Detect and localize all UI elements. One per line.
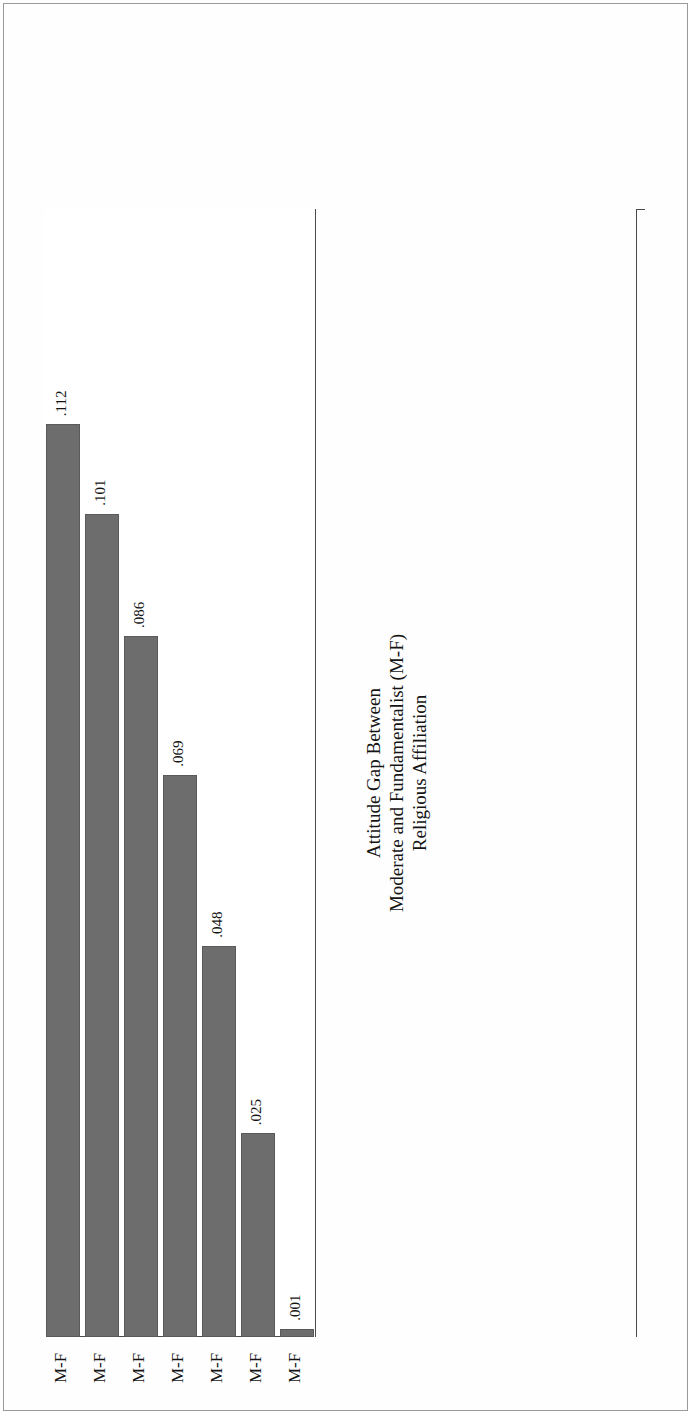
bar-chart-panel: M-F.112M-F.101M-F.086M-F.069M-F.048M-F.0…: [26, 31, 346, 1383]
bar-axis-line: [636, 209, 637, 1337]
bar-category-label: M-F: [51, 1353, 71, 1383]
bar-row: M-F.001: [279, 209, 313, 1337]
bar-row: M-F.048: [201, 209, 235, 1337]
bar-axis-tick: [636, 209, 645, 210]
bar-category-label: M-F: [129, 1353, 149, 1383]
bar-value-label: .069: [170, 740, 187, 766]
bar-chart-title: Attitude Gap Between Moderate and Fundam…: [362, 209, 432, 1337]
bar-category-label: M-F: [168, 1353, 188, 1383]
bar-category-label: M-F: [245, 1353, 265, 1383]
bar-row: M-F.101: [85, 209, 119, 1337]
bar-row: M-F.025: [240, 209, 274, 1337]
bar-title-line-2: Moderate and Fundamentalist (M-F): [385, 209, 408, 1337]
bar-category-label: M-F: [284, 1353, 304, 1383]
bar-category-label: M-F: [206, 1353, 226, 1383]
bar: [279, 1329, 313, 1337]
bar: [201, 946, 235, 1337]
bar-category-label: M-F: [90, 1353, 110, 1383]
bar-value-label: .086: [131, 602, 148, 628]
bar-row: M-F.086: [124, 209, 158, 1337]
bar-title-line-3: Religious Affiliation: [408, 209, 431, 1337]
rotated-figure-stage: M-F.112M-F.101M-F.086M-F.069M-F.048M-F.0…: [26, 31, 666, 1383]
bar-row: M-F.069: [163, 209, 197, 1337]
bar-value-label: .048: [208, 912, 225, 938]
bar: [240, 1133, 274, 1337]
bar: [46, 424, 80, 1337]
bar: [163, 775, 197, 1337]
figure: M-F.112M-F.101M-F.086M-F.069M-F.048M-F.0…: [26, 31, 666, 1383]
bar-value-label: .025: [247, 1099, 264, 1125]
bar-chart-titles: Attitude Gap Between Moderate and Fundam…: [346, 31, 466, 1383]
bar: [124, 636, 158, 1337]
bar-value-label: .001: [286, 1295, 303, 1321]
bar-plot-area: M-F.112M-F.101M-F.086M-F.069M-F.048M-F.0…: [44, 209, 316, 1337]
bar-axis: [636, 209, 691, 1337]
bar-value-label: .112: [53, 391, 70, 417]
bar-value-label: .101: [92, 480, 109, 506]
bar: [85, 514, 119, 1337]
bar-row: M-F.112: [46, 209, 80, 1337]
bar-title-line-1: Attitude Gap Between: [362, 209, 385, 1337]
